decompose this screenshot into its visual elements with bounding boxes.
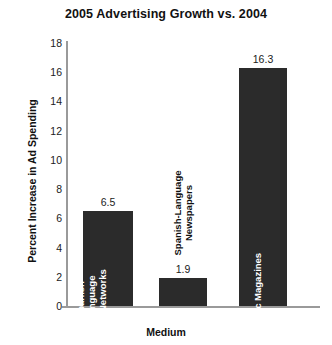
y-tick-label: 6	[0, 212, 62, 224]
bar[interactable]: Hispanic Magazines	[239, 68, 287, 306]
y-tick-label: 0	[0, 300, 62, 312]
bar-value-label: 6.5	[83, 196, 133, 208]
bar[interactable]: Spanish-LanguageTV Networks	[83, 211, 133, 306]
bar-category-label-line: Spanish-Language	[172, 163, 183, 263]
bar-category-label: Spanish-LanguageTV Networks	[75, 269, 108, 327]
bar-category-label-line: Language	[86, 269, 97, 327]
y-tick-label: 14	[0, 95, 62, 107]
bar-category-label-line: TV Networks	[97, 269, 108, 327]
y-tick-label: 8	[0, 183, 62, 195]
chart-title: 2005 Advertising Growth vs. 2004	[0, 7, 332, 21]
bar-category-label-line: Newspapers	[183, 163, 194, 263]
bar-category-label-line: Spanish-	[75, 269, 86, 327]
bar-category-label: Spanish-LanguageNewspapers	[172, 163, 194, 263]
bar-value-label: 16.3	[239, 53, 287, 65]
y-tick-label: 18	[0, 37, 62, 49]
bar-chart: 2005 Advertising Growth vs. 2004 Percent…	[0, 0, 332, 345]
y-tick-label: 12	[0, 125, 62, 137]
x-axis-title: Medium	[0, 326, 332, 338]
y-tick-label: 2	[0, 271, 62, 283]
bar-value-label: 1.9	[159, 263, 207, 275]
y-tick-label: 10	[0, 154, 62, 166]
y-tick-label: 4	[0, 242, 62, 254]
y-tick-label: 16	[0, 66, 62, 78]
plot-area: Spanish-LanguageTV Networks6.5Spanish-La…	[66, 43, 320, 306]
bar[interactable]	[159, 278, 207, 306]
